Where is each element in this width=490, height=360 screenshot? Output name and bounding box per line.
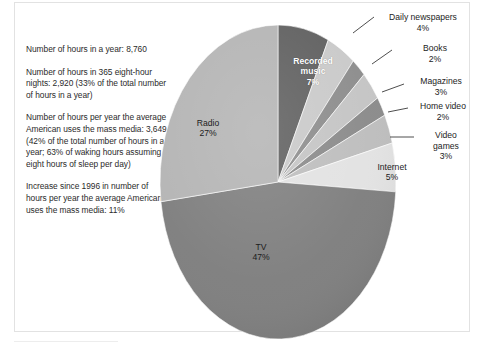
newspapers-name: Daily newspapers — [389, 12, 457, 22]
magazines-name: Magazines — [420, 76, 462, 86]
books-pct: 2% — [385, 54, 485, 65]
slice-label-recorded-music: Recorded music 7% — [279, 56, 347, 87]
recorded-music-pct: 7% — [307, 77, 319, 87]
internet-name: Internet — [377, 162, 406, 172]
pie-chart-figure: Number of hours in a year: 8,760 Number … — [0, 0, 490, 360]
newspapers-pct: 4% — [361, 23, 485, 34]
callout-label-books: Books 2% — [385, 43, 485, 64]
caption-rule — [14, 341, 118, 342]
callout-label-magazines: Magazines 3% — [396, 76, 486, 97]
magazines-pct: 3% — [396, 87, 486, 98]
callout-label-home-video: Home video 2% — [398, 101, 488, 122]
slice-label-tv: TV 47% — [231, 242, 291, 263]
home-video-name: Home video — [420, 101, 466, 111]
radio-pct: 27% — [199, 128, 216, 138]
callout-label-newspapers: Daily newspapers 4% — [361, 12, 485, 33]
internet-pct: 5% — [386, 172, 398, 182]
video-games-pct: 3% — [414, 151, 478, 162]
slice-label-internet: Internet 5% — [364, 162, 420, 183]
pie-slice-radio[interactable] — [160, 25, 278, 202]
recorded-music-line2: music — [301, 66, 326, 76]
tv-pct: 47% — [252, 252, 269, 262]
callout-label-video-games: Video games 3% — [414, 130, 478, 162]
tv-name: TV — [256, 242, 267, 252]
pie-slices — [160, 25, 396, 339]
books-name: Books — [423, 43, 447, 53]
radio-name: Radio — [197, 118, 219, 128]
video-games-line1: Video — [435, 130, 457, 140]
home-video-pct: 2% — [398, 112, 488, 123]
recorded-music-line1: Recorded — [293, 56, 333, 66]
video-games-line2: games — [433, 141, 459, 151]
slice-label-radio: Radio 27% — [178, 118, 238, 139]
